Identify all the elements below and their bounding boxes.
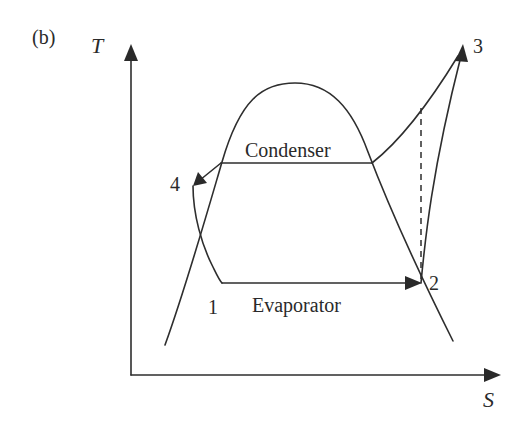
condenser-label: Condenser <box>245 139 331 161</box>
evaporator-process <box>222 276 422 290</box>
x-axis-label: S <box>483 387 494 412</box>
state-point-2-label: 2 <box>429 272 439 294</box>
condenser-arrowhead-icon <box>193 172 207 186</box>
x-axis: S <box>131 368 501 412</box>
y-axis-arrowhead-icon <box>124 44 138 61</box>
condenser-process <box>193 163 372 186</box>
x-axis-arrowhead-icon <box>484 368 501 382</box>
evaporator-arrowhead-icon <box>405 276 422 290</box>
state-point-1-label: 1 <box>208 296 218 318</box>
ts-diagram: (b) T S Condenser Evaporator 1 2 3 4 <box>0 0 526 422</box>
y-axis: T <box>91 33 138 375</box>
desuperheat-curve <box>372 56 458 163</box>
state-point-3-label: 3 <box>473 35 483 57</box>
y-axis-label: T <box>91 33 105 58</box>
evaporator-label: Evaporator <box>252 294 341 317</box>
compression-line <box>421 56 461 283</box>
point-3-arrowhead-icon <box>455 44 468 62</box>
panel-label: (b) <box>32 26 55 49</box>
state-point-4-label: 4 <box>170 173 180 195</box>
expansion-curve <box>193 186 222 283</box>
